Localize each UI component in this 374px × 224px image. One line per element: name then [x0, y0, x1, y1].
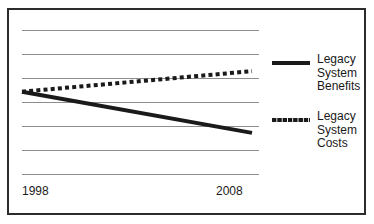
dotted-line-swatch [272, 118, 310, 122]
x-axis-tick-label-start: 1998 [22, 184, 49, 198]
plot-area [22, 22, 259, 178]
series-line-legacy-system-benefits [22, 92, 252, 133]
series-layer [22, 22, 259, 178]
legend-label-line-2: System [317, 124, 357, 138]
legend-label-line-3: Costs [317, 137, 357, 151]
legend-label-line-3: Benefits [317, 80, 360, 94]
series-line-legacy-system-costs [22, 71, 252, 92]
x-axis-tick-label-end: 2008 [216, 184, 243, 198]
legend-label-line-2: System [317, 67, 360, 81]
legend-label-line-1: Legacy [317, 53, 360, 67]
legend-item-label: Legacy System Costs [317, 110, 357, 151]
legend-label-line-1: Legacy [317, 110, 357, 124]
chart-figure: 1998 2008 Legacy System Benefits Legacy … [0, 0, 374, 224]
legend-item-label: Legacy System Benefits [317, 53, 360, 94]
solid-line-swatch [272, 61, 310, 65]
